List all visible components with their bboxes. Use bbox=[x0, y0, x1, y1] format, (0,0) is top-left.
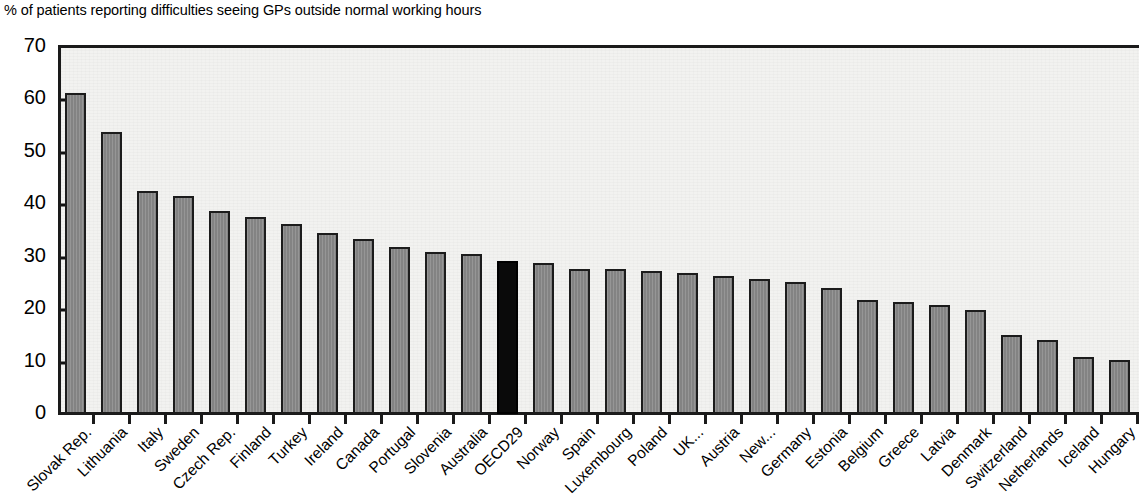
bar-fill-texture bbox=[211, 213, 228, 412]
x-axis-tick-mark bbox=[1064, 415, 1067, 424]
bar-fill-texture bbox=[715, 278, 732, 412]
bar bbox=[857, 300, 878, 414]
bar bbox=[497, 261, 518, 414]
bar-fill-texture bbox=[319, 235, 336, 412]
x-axis-tick-mark bbox=[848, 415, 851, 424]
bar bbox=[65, 93, 86, 414]
bar-fill-texture bbox=[967, 312, 984, 412]
x-axis-tick-mark bbox=[956, 415, 959, 424]
y-axis-tick-label: 50 bbox=[24, 140, 46, 160]
bar-fill-texture bbox=[283, 226, 300, 412]
x-axis-tick-mark bbox=[344, 415, 347, 424]
x-axis-tick-mark bbox=[236, 415, 239, 424]
x-axis-tick-mark bbox=[1136, 415, 1139, 424]
bar-fill-texture bbox=[679, 275, 696, 412]
bars-container bbox=[58, 45, 1139, 414]
x-axis-ticks bbox=[58, 415, 1139, 424]
bar bbox=[569, 269, 590, 414]
bar-fill-texture bbox=[391, 249, 408, 412]
bar bbox=[677, 273, 698, 414]
x-axis-tick-label: Austria bbox=[697, 424, 742, 469]
bar-fill-texture bbox=[175, 198, 192, 412]
y-axis-tick-label: 40 bbox=[24, 192, 46, 212]
x-axis-tick-mark bbox=[92, 415, 95, 424]
bar bbox=[821, 288, 842, 414]
y-axis-tick-label: 10 bbox=[24, 350, 46, 370]
bar-fill-texture bbox=[571, 271, 588, 412]
bar bbox=[785, 282, 806, 414]
x-axis-tick-label: Turkey bbox=[266, 424, 310, 468]
chart-title: % of patients reporting difficulties see… bbox=[4, 2, 481, 18]
y-axis: 010203040506070 bbox=[0, 0, 52, 498]
y-axis-tick-label: 0 bbox=[35, 402, 46, 422]
y-axis-tick-label: 70 bbox=[24, 35, 46, 55]
bar-fill-texture bbox=[1075, 359, 1092, 412]
bar bbox=[605, 269, 626, 414]
x-axis-tick-mark bbox=[488, 415, 491, 424]
x-axis-tick-mark bbox=[560, 415, 563, 424]
bar-fill-texture bbox=[859, 302, 876, 412]
bar bbox=[965, 310, 986, 414]
x-axis-tick-mark bbox=[380, 415, 383, 424]
bar-chart-figure: % of patients reporting difficulties see… bbox=[0, 0, 1139, 498]
x-axis-tick-mark bbox=[632, 415, 635, 424]
x-axis-tick-mark bbox=[1028, 415, 1031, 424]
x-axis-tick-mark bbox=[596, 415, 599, 424]
x-axis-labels: Slovak Rep.LithuaniaItalySwedenCzech Rep… bbox=[58, 424, 1139, 498]
x-axis-tick-mark bbox=[272, 415, 275, 424]
bar-fill-texture bbox=[247, 219, 264, 412]
bar bbox=[425, 252, 446, 414]
x-axis-tick-mark bbox=[704, 415, 707, 424]
x-axis-tick-mark bbox=[164, 415, 167, 424]
x-axis-tick-label: Poland bbox=[625, 424, 670, 469]
bar-fill-texture bbox=[643, 273, 660, 412]
bar-fill-texture bbox=[139, 193, 156, 412]
bar bbox=[173, 196, 194, 414]
bar bbox=[1001, 335, 1022, 414]
bar-fill-texture bbox=[67, 95, 84, 412]
x-axis-tick-mark bbox=[416, 415, 419, 424]
bar bbox=[317, 233, 338, 414]
bar bbox=[641, 271, 662, 414]
x-axis-tick-mark bbox=[884, 415, 887, 424]
y-axis-tick-label: 20 bbox=[24, 297, 46, 317]
bar bbox=[101, 132, 122, 414]
bar bbox=[713, 276, 734, 414]
x-axis-tick-mark bbox=[128, 415, 131, 424]
bar bbox=[533, 263, 554, 414]
bar bbox=[353, 239, 374, 414]
bar-fill-texture bbox=[895, 304, 912, 412]
x-axis-tick-mark bbox=[200, 415, 203, 424]
bar bbox=[389, 247, 410, 414]
x-axis-tick-mark bbox=[776, 415, 779, 424]
bar bbox=[1109, 360, 1130, 414]
bar bbox=[461, 254, 482, 414]
bar bbox=[137, 191, 158, 414]
bar-fill-texture bbox=[463, 256, 480, 412]
bar bbox=[929, 305, 950, 414]
bar bbox=[893, 302, 914, 414]
x-axis-tick-mark bbox=[668, 415, 671, 424]
bar-fill-texture bbox=[103, 134, 120, 412]
x-axis-tick-mark bbox=[992, 415, 995, 424]
bar-fill-texture bbox=[823, 290, 840, 412]
bar-fill-texture bbox=[499, 263, 516, 412]
bar bbox=[1037, 340, 1058, 414]
x-axis-tick-mark bbox=[740, 415, 743, 424]
y-axis-tick-label: 30 bbox=[24, 245, 46, 265]
x-axis-tick-mark bbox=[920, 415, 923, 424]
bar-fill-texture bbox=[751, 281, 768, 412]
bar-fill-texture bbox=[355, 241, 372, 412]
bar bbox=[281, 224, 302, 414]
bar-fill-texture bbox=[607, 271, 624, 412]
bar bbox=[1073, 357, 1094, 414]
bar-fill-texture bbox=[787, 284, 804, 412]
bar bbox=[749, 279, 770, 414]
y-axis-tick-label: 60 bbox=[24, 87, 46, 107]
x-axis-tick-mark bbox=[524, 415, 527, 424]
bar bbox=[209, 211, 230, 414]
bar-fill-texture bbox=[1003, 337, 1020, 412]
bar-fill-texture bbox=[535, 265, 552, 412]
bar-fill-texture bbox=[1039, 342, 1056, 412]
bar-fill-texture bbox=[427, 254, 444, 412]
